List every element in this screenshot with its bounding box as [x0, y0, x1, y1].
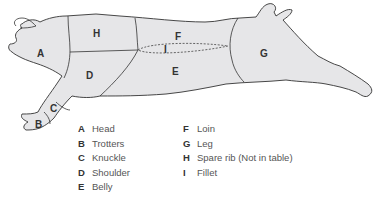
- legend-key: D: [78, 166, 92, 179]
- legend-item-a: A Head: [78, 122, 130, 137]
- legend-label: Leg: [197, 137, 213, 150]
- region-label-g: G: [260, 48, 268, 59]
- legend-key: G: [183, 137, 197, 150]
- legend-label: Spare rib (Not in table): [197, 151, 293, 164]
- region-label-f: F: [175, 31, 181, 42]
- legend-item-b: B Trotters: [78, 137, 130, 152]
- pig-body-outline: [9, 4, 372, 130]
- legend-key: H: [183, 151, 197, 164]
- legend-label: Head: [92, 122, 115, 135]
- legend-item-e: E Belly: [78, 180, 130, 195]
- legend-label: Belly: [92, 180, 113, 193]
- region-label-i: I: [164, 44, 167, 55]
- legend-key: I: [183, 166, 197, 179]
- region-label-a: A: [37, 48, 44, 59]
- legend-label: Loin: [197, 122, 215, 135]
- legend-label: Trotters: [92, 137, 124, 150]
- region-label-h: H: [93, 28, 100, 39]
- legend-item-d: D Shoulder: [78, 166, 130, 181]
- region-label-c: C: [50, 103, 57, 114]
- legend-label: Shoulder: [92, 166, 130, 179]
- legend-key: E: [78, 180, 92, 193]
- legend-key: C: [78, 151, 92, 164]
- legend-key: B: [78, 137, 92, 150]
- legend-key: A: [78, 122, 92, 135]
- region-label-d: D: [86, 70, 93, 81]
- region-label-b: B: [35, 119, 42, 130]
- region-label-e: E: [172, 66, 179, 77]
- legend-item-f: F Loin: [183, 122, 293, 137]
- legend-left-column: A Head B Trotters C Knuckle D Shoulder E…: [78, 122, 130, 195]
- legend-item-c: C Knuckle: [78, 151, 130, 166]
- legend-item-g: G Leg: [183, 137, 293, 152]
- legend-right-column: F Loin G Leg H Spare rib (Not in table) …: [183, 122, 293, 180]
- legend-label: Knuckle: [92, 151, 126, 164]
- legend-item-h: H Spare rib (Not in table): [183, 151, 293, 166]
- legend-key: F: [183, 122, 197, 135]
- legend-label: Fillet: [197, 166, 217, 179]
- legend-item-i: I Fillet: [183, 166, 293, 181]
